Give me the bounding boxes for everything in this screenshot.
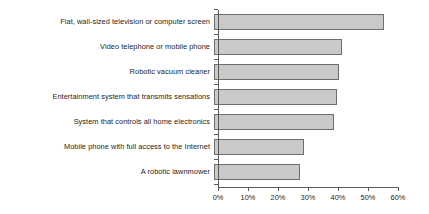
x-axis-tick xyxy=(338,187,339,191)
x-axis-tick-label: 20% xyxy=(271,193,286,202)
bar-track xyxy=(214,84,429,109)
y-axis-tick xyxy=(214,34,218,35)
category-label: Entertainment system that transmits sens… xyxy=(0,92,214,101)
bar-row: Mobile phone with full access to the Int… xyxy=(0,134,429,159)
x-axis-tick xyxy=(278,187,279,191)
bar-row: Robotic vacuum cleaner xyxy=(0,59,429,84)
bar-track xyxy=(214,9,429,34)
x-axis-tick xyxy=(308,187,309,191)
y-axis-tick xyxy=(214,134,218,135)
y-axis-line xyxy=(218,10,219,187)
bar xyxy=(214,164,300,180)
category-label: Flat, wall-sized television or computer … xyxy=(0,17,214,26)
bar-row: Entertainment system that transmits sens… xyxy=(0,84,429,109)
x-axis-tick xyxy=(248,187,249,191)
category-label: Video telephone or mobile phone xyxy=(0,42,214,51)
x-axis-tick xyxy=(398,187,399,191)
plot-area: Flat, wall-sized television or computer … xyxy=(0,0,429,214)
category-label: A robotic lawnmower xyxy=(0,167,214,176)
bar-rows: Flat, wall-sized television or computer … xyxy=(0,9,429,184)
y-axis-tick xyxy=(214,184,218,185)
x-axis-tick-label: 40% xyxy=(331,193,346,202)
bar-row: A robotic lawnmower xyxy=(0,159,429,184)
bar-track xyxy=(214,109,429,134)
bar-track xyxy=(214,159,429,184)
bar xyxy=(214,139,304,155)
bar xyxy=(214,64,339,80)
y-axis-tick xyxy=(214,159,218,160)
x-axis-tick-label: 50% xyxy=(361,193,376,202)
y-axis-tick xyxy=(214,109,218,110)
bar xyxy=(214,39,342,55)
x-axis-tick-label: 60% xyxy=(391,193,406,202)
bar xyxy=(214,89,337,105)
x-axis-tick-label: 30% xyxy=(301,193,316,202)
bar-row: System that controls all home electronic… xyxy=(0,109,429,134)
category-label: Robotic vacuum cleaner xyxy=(0,67,214,76)
category-label: System that controls all home electronic… xyxy=(0,117,214,126)
bar-chart: Flat, wall-sized television or computer … xyxy=(0,0,429,214)
bar-track xyxy=(214,34,429,59)
bar-row: Flat, wall-sized television or computer … xyxy=(0,9,429,34)
x-axis-tick xyxy=(368,187,369,191)
y-axis-tick xyxy=(214,9,218,10)
x-axis-tick-label: 0% xyxy=(213,193,224,202)
category-label: Mobile phone with full access to the Int… xyxy=(0,142,214,151)
x-axis-tick xyxy=(218,187,219,191)
bar-row: Video telephone or mobile phone xyxy=(0,34,429,59)
bar-track xyxy=(214,134,429,159)
y-axis-tick xyxy=(214,84,218,85)
bar-track xyxy=(214,59,429,84)
bar xyxy=(214,114,334,130)
bar xyxy=(214,14,384,30)
x-axis-tick-label: 10% xyxy=(241,193,256,202)
y-axis-tick xyxy=(214,59,218,60)
